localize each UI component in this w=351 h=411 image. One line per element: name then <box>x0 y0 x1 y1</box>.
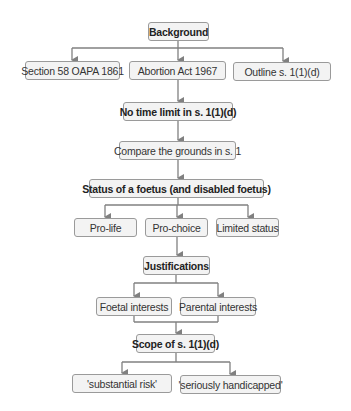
node-justifications: Justifications <box>143 256 210 275</box>
node-status-of-foetus: Status of a foetus (and disabled foetus) <box>89 179 264 198</box>
node-scope: Scope of s. 1(1)(d) <box>136 334 215 353</box>
node-background: Background <box>148 22 209 41</box>
node-foetal-interests: Foetal interests <box>96 297 172 316</box>
flowchart: Background Section 58 OAPA 1861 Abortion… <box>0 0 351 411</box>
node-abortion-act: Abortion Act 1967 <box>129 61 226 80</box>
node-outline: Outline s. 1(1)(d) <box>233 62 331 81</box>
node-section-58-oapa: Section 58 OAPA 1861 <box>25 61 120 80</box>
node-substantial-risk: 'substantial risk' <box>72 374 172 393</box>
node-pro-choice: Pro-choice <box>145 218 208 237</box>
node-compare-grounds: Compare the grounds in s. 1 <box>119 141 236 160</box>
node-limited-status: Limited status <box>216 218 279 237</box>
node-pro-life: Pro-life <box>74 218 137 237</box>
node-seriously-handicapped: 'seriously handicapped' <box>180 375 281 394</box>
node-parental-interests: Parental interests <box>180 297 256 316</box>
node-no-time-limit: No time limit in s. 1(1)(d) <box>123 102 233 121</box>
